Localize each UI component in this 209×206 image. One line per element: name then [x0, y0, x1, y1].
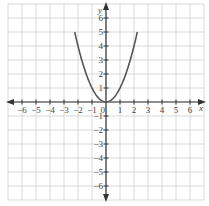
- x-axis-label: x: [198, 103, 203, 113]
- y-tick-label: 4: [99, 41, 104, 51]
- x-tick-label: −4: [45, 105, 55, 115]
- x-tick-label: −6: [17, 105, 27, 115]
- x-axis-left-arrow-icon: [6, 99, 14, 105]
- x-tick-label: 3: [146, 105, 151, 115]
- y-tick-label: −2: [93, 125, 103, 135]
- x-tick-label: −2: [73, 105, 83, 115]
- y-tick-label: −4: [93, 153, 103, 163]
- x-tick-label: −5: [31, 105, 41, 115]
- x-tick-label: −3: [59, 105, 69, 115]
- y-tick-label: 1: [99, 83, 104, 93]
- x-tick-label: 2: [132, 105, 137, 115]
- x-tick-label: 4: [160, 105, 165, 115]
- x-tick-label: 5: [174, 105, 179, 115]
- y-tick-label: −5: [93, 167, 103, 177]
- x-tick-label: 1: [118, 105, 123, 115]
- x-tick-label: 6: [188, 105, 193, 115]
- coordinate-plane: −6−5−4−3−2−10123456−6−5−4−3−2−1123456 x …: [0, 0, 209, 206]
- y-tick-label: −3: [93, 139, 103, 149]
- y-tick-label: 2: [99, 69, 104, 79]
- y-tick-label: −6: [93, 181, 103, 191]
- y-tick-label: 5: [99, 27, 104, 37]
- y-tick-label: 3: [99, 55, 104, 65]
- y-axis-down-arrow-icon: [103, 194, 109, 202]
- y-axis-up-arrow-icon: [103, 2, 109, 10]
- y-tick-label: −1: [93, 111, 103, 121]
- y-axis-label: y: [97, 5, 102, 15]
